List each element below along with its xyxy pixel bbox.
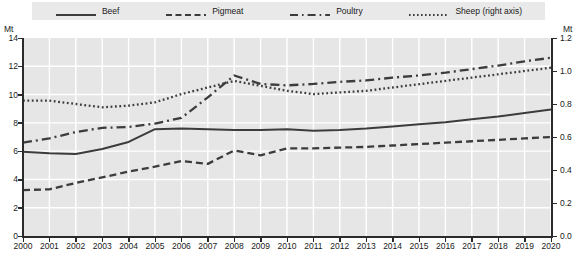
- right-axis-tick-mark: [552, 170, 557, 172]
- x-axis-tick-mark: [392, 238, 394, 242]
- legend-item-pigmeat[interactable]: Pigmeat: [165, 6, 243, 16]
- right-axis-tick-label: 0.4: [560, 165, 582, 175]
- legend-item-beef[interactable]: Beef: [55, 6, 120, 16]
- x-axis-tick-mark: [287, 238, 289, 242]
- left-axis-tick-mark: [18, 151, 23, 153]
- x-axis-tick-label: 2020: [536, 241, 566, 252]
- legend-item-sheep[interactable]: Sheep (right axis): [408, 6, 522, 16]
- x-axis-tick-mark: [207, 238, 209, 242]
- legend-label-pigmeat: Pigmeat: [212, 6, 243, 16]
- x-axis-tick-mark: [155, 238, 157, 242]
- right-axis-tick-mark: [552, 104, 557, 106]
- right-axis-tick-label: 0.8: [560, 99, 582, 109]
- right-axis-tick-label: 0.0: [560, 231, 582, 241]
- left-axis-tick-label: 14: [0, 33, 18, 43]
- left-axis-tick-mark: [18, 207, 23, 209]
- dashed-line-key: [165, 6, 207, 16]
- left-axis-tick-mark: [18, 179, 23, 181]
- series-canvas: [23, 38, 551, 236]
- right-axis-tick-mark: [552, 203, 557, 205]
- left-axis-tick-mark: [18, 38, 23, 40]
- left-axis-tick-label: 10: [0, 90, 18, 100]
- x-axis-tick-mark: [445, 238, 447, 242]
- x-axis-tick-mark: [260, 238, 262, 242]
- right-axis-tick-label: 1.0: [560, 66, 582, 76]
- x-axis-tick-mark: [23, 238, 25, 242]
- left-axis-tick-mark: [18, 66, 23, 68]
- gridlines: [23, 38, 551, 236]
- right-axis-tick-mark: [552, 137, 557, 139]
- right-axis-tick-mark: [552, 38, 557, 40]
- x-axis-tick-mark: [234, 238, 236, 242]
- solid-line-key: [55, 6, 97, 16]
- legend-label-beef: Beef: [102, 6, 120, 16]
- left-axis-tick-mark: [18, 122, 23, 124]
- x-axis-tick-mark: [339, 238, 341, 242]
- chart-legend: Beef Pigmeat Poultry: [32, 2, 545, 20]
- right-axis-tick-label: 0.6: [560, 132, 582, 142]
- legend-item-poultry[interactable]: Poultry: [289, 6, 362, 16]
- right-axis-tick-mark: [552, 71, 557, 73]
- legend-label-poultry: Poultry: [336, 6, 362, 16]
- left-axis-tick-label: 6: [0, 146, 18, 156]
- x-axis-tick-mark: [181, 238, 183, 242]
- right-axis-tick-mark: [552, 236, 557, 238]
- left-axis-tick-label: 0: [0, 231, 18, 241]
- x-axis-tick-mark: [471, 238, 473, 242]
- x-axis-tick-mark: [75, 238, 77, 242]
- right-axis-tick-label: 0.2: [560, 198, 582, 208]
- right-axis-tick-label: 1.2: [560, 33, 582, 43]
- left-axis-tick-label: 2: [0, 203, 18, 213]
- line-chart: Beef Pigmeat Poultry: [0, 0, 583, 260]
- x-axis-tick-mark: [498, 238, 500, 242]
- plot-area: [23, 38, 551, 236]
- left-axis-tick-label: 12: [0, 61, 18, 71]
- left-axis-tick-label: 4: [0, 174, 18, 184]
- left-axis-tick-label: 8: [0, 118, 18, 128]
- x-axis-tick-mark: [419, 238, 421, 242]
- x-axis-tick-mark: [49, 238, 51, 242]
- x-axis-tick-mark: [551, 238, 553, 242]
- legend-label-sheep: Sheep (right axis): [455, 6, 522, 16]
- x-axis-tick-mark: [524, 238, 526, 242]
- dotted-line-key: [408, 6, 450, 16]
- left-axis-tick-mark: [18, 94, 23, 96]
- left-axis-tick-mark: [18, 236, 23, 238]
- x-axis-tick-mark: [102, 238, 104, 242]
- x-axis-tick-mark: [366, 238, 368, 242]
- dash-dot-line-key: [289, 6, 331, 16]
- x-axis-tick-mark: [128, 238, 130, 242]
- x-axis-tick-mark: [313, 238, 315, 242]
